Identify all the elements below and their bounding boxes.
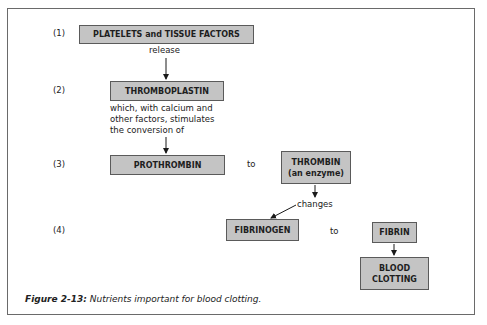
- arrow-changes-fibrinogen: [271, 205, 296, 218]
- figure-caption-text: Nutrients important for blood clotting.: [87, 294, 262, 304]
- arrows-layer: [0, 0, 487, 325]
- figure-caption: Figure 2-13: Nutrients important for blo…: [25, 294, 261, 304]
- figure-number: Figure 2-13:: [25, 294, 87, 304]
